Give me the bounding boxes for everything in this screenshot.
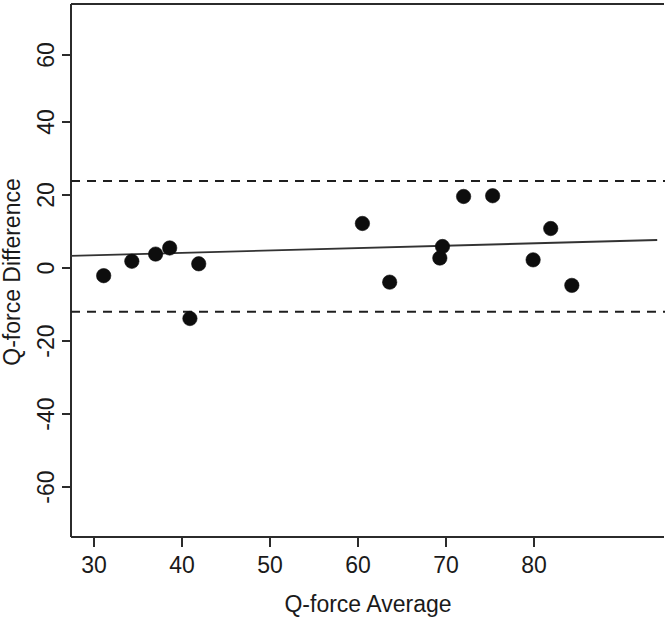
data-point (565, 278, 579, 292)
x-tick-label-30: 30 (81, 552, 107, 578)
data-point (162, 241, 176, 255)
x-axis-title: Q-force Average (284, 591, 451, 617)
y-tick-label-minus40: -40 (33, 397, 59, 430)
y-axis-title: Q-force Difference (0, 178, 25, 365)
data-point (435, 239, 449, 253)
data-point (148, 247, 162, 261)
data-point (485, 189, 499, 203)
bland-altman-chart-figure: 60 40 20 0 -20 -40 -60 30 40 50 60 70 80… (0, 0, 665, 624)
x-tick-label-40: 40 (169, 552, 195, 578)
y-tick-label-minus20: -20 (33, 324, 59, 357)
y-tick-label-0: 0 (33, 262, 59, 275)
y-tick-label-40: 40 (33, 109, 59, 135)
x-axis-ticks (94, 537, 534, 547)
x-tick-label-80: 80 (521, 552, 547, 578)
y-tick-label-20: 20 (33, 182, 59, 208)
x-tick-label-60: 60 (345, 552, 371, 578)
y-axis-ticks (62, 55, 71, 487)
data-point (456, 189, 470, 203)
data-point (183, 311, 197, 325)
data-point (192, 257, 206, 271)
data-point (544, 221, 558, 235)
y-axis-tick-labels: 60 40 20 0 -20 -40 -60 (33, 42, 59, 503)
plot-frame (71, 4, 664, 537)
data-point (526, 253, 540, 267)
y-tick-label-minus60: -60 (33, 470, 59, 503)
data-point (355, 216, 369, 230)
x-tick-label-50: 50 (257, 552, 283, 578)
x-tick-label-70: 70 (433, 552, 459, 578)
data-point (125, 254, 139, 268)
x-axis-tick-labels: 30 40 50 60 70 80 (81, 552, 547, 578)
scatter-plot-canvas: 60 40 20 0 -20 -40 -60 30 40 50 60 70 80… (0, 0, 665, 624)
data-point (382, 275, 396, 289)
y-tick-label-60: 60 (33, 42, 59, 68)
plot-data-layer (70, 181, 665, 326)
data-point (96, 268, 110, 282)
